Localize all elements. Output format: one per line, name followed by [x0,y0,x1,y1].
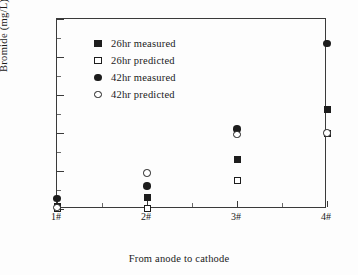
x-axis-title: From anode to cathode [0,253,358,264]
data-point [144,194,151,201]
y-axis-minor-tick [57,152,61,153]
data-point [233,131,241,139]
data-point [234,156,241,163]
x-axis-tick-label: 4# [311,211,341,222]
y-axis-tick [57,57,64,58]
data-point [323,129,331,137]
y-axis-tick [57,95,64,96]
y-axis-tick [57,133,64,134]
legend-item: 26hr measured [91,35,176,52]
x-axis-tick-label: 1# [41,211,71,222]
legend-marker-icon [91,57,105,65]
x-axis-minor-tick [192,203,193,207]
legend-marker-icon [91,74,105,82]
data-point [234,177,241,184]
legend-marker-icon [91,91,105,99]
x-axis-tick [327,201,328,207]
y-axis-minor-tick [57,76,61,77]
x-axis-minor-tick [282,203,283,207]
filled-circle-icon [94,74,102,82]
y-axis-minor-tick [57,114,61,115]
open-circle-icon [94,91,102,99]
legend-item-label: 26hr predicted [111,55,175,66]
legend-marker-icon [91,40,105,48]
data-point [324,106,331,113]
y-axis-tick [57,171,64,172]
data-point [143,169,151,177]
data-point [53,195,61,203]
y-axis-minor-tick [57,38,61,39]
legend-item-label: 42hr measured [111,72,176,83]
y-axis-minor-tick [57,190,61,191]
legend-item: 42hr predicted [91,86,176,103]
legend-item: 42hr measured [91,69,176,86]
y-axis-tick [57,19,64,20]
legend-item: 26hr predicted [91,52,176,69]
plot-area: 05001000150020002500 26hr measured26hr p… [56,18,326,208]
x-axis-tick-label: 2# [131,211,161,222]
x-axis-tick-label: 3# [221,211,251,222]
bromide-scatter-figure: Bromide (mg/L) 05001000150020002500 26hr… [0,0,358,275]
y-axis-title: Bromide (mg/L) [0,0,9,72]
legend-item-label: 42hr predicted [111,89,175,100]
legend-item-label: 26hr measured [111,38,176,49]
x-axis-minor-tick [102,203,103,207]
data-point [323,40,331,48]
data-point [143,182,151,190]
open-square-icon [94,57,102,65]
chart-legend: 26hr measured26hr predicted42hr measured… [91,35,176,103]
x-axis-tick [237,201,238,207]
filled-square-icon [94,40,102,48]
